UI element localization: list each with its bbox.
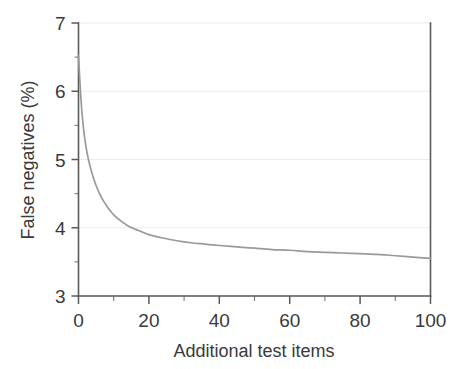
y-tick-label: 3	[55, 286, 66, 307]
minor-tick-marks	[75, 57, 396, 301]
x-tick-label: 40	[209, 310, 230, 331]
chart-figure: 34567 020406080100 Additional test items…	[0, 0, 464, 369]
y-axis-tick-labels: 34567	[55, 13, 66, 307]
x-tick-label: 0	[73, 310, 84, 331]
y-axis-title: False negatives (%)	[18, 80, 38, 239]
x-axis-title: Additional test items	[173, 341, 334, 361]
x-tick-label: 80	[350, 310, 371, 331]
x-tick-label: 100	[415, 310, 447, 331]
x-axis-tick-labels: 020406080100	[73, 310, 446, 331]
line-chart: 34567 020406080100 Additional test items…	[0, 0, 464, 369]
x-tick-label: 20	[138, 310, 159, 331]
x-tick-label: 60	[279, 310, 300, 331]
y-tick-label: 4	[55, 218, 66, 239]
y-tick-label: 5	[55, 150, 66, 171]
y-tick-label: 7	[55, 13, 66, 34]
y-tick-label: 6	[55, 81, 66, 102]
major-tick-marks	[72, 23, 431, 304]
